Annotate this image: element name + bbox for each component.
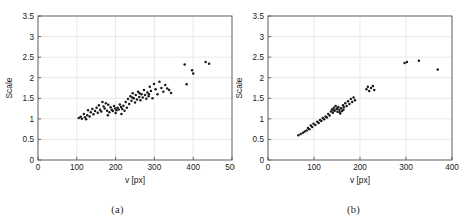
data-point [123,109,126,112]
data-point [131,96,134,99]
data-point [153,83,156,86]
data-point [403,62,406,65]
y-tick-label: 2 [259,74,264,83]
data-point [108,111,111,114]
data-point [354,99,357,102]
y-tick-label: 2.5 [23,53,35,62]
data-point [90,111,93,114]
data-point [164,84,167,87]
y-tick-label: 3.5 [23,12,35,21]
data-point [347,100,350,103]
data-point [185,83,188,86]
data-point [308,128,311,131]
data-point [112,110,115,113]
data-point [328,114,331,117]
data-point [106,109,109,112]
x-tick-label: 100 [70,163,84,172]
y-tick-label: 0 [29,156,34,165]
data-point [128,103,131,106]
data-point [192,72,195,75]
data-point [119,103,122,106]
y-tick-label: 0.5 [23,135,35,144]
x-tick-label: 400 [445,163,459,172]
data-point [323,118,326,121]
data-point [334,105,337,108]
data-point [311,126,314,129]
data-point [109,106,112,109]
data-point [113,105,116,108]
data-point [88,115,91,118]
panel-b-caption: (b) [236,204,471,215]
data-point [148,86,151,89]
figure-container: 010020030040050000.511.522.533.5v [px]Sc… [0,0,471,221]
data-point [134,101,137,104]
data-point [117,108,120,111]
data-point [160,87,163,90]
y-tick-label: 1.5 [253,94,265,103]
data-point [150,90,153,93]
data-point [120,113,123,116]
data-point [127,98,130,101]
x-tick-label: 300 [148,163,162,172]
data-point [367,86,370,89]
data-point [340,107,343,110]
data-point [326,116,329,119]
data-point [314,124,317,127]
x-axis-title: v [px] [125,175,145,185]
data-point [365,88,368,91]
data-point [98,104,101,107]
y-tick-label: 0 [259,156,264,165]
x-tick-label: 0 [36,163,41,172]
data-point [368,90,371,93]
data-point [191,69,194,72]
y-tick-label: 3 [29,33,34,42]
scatter-plot-b: 010020030040000.511.522.533.5v [px]Scale [236,0,471,190]
data-point [317,122,320,125]
data-point [297,134,300,137]
data-point [336,107,339,110]
data-point [103,107,106,110]
data-point [85,118,88,121]
x-tick-label: 0 [266,163,271,172]
data-point [183,63,186,66]
data-point [158,81,161,84]
panel-a-caption: (a) [0,204,235,215]
data-point [83,113,86,116]
data-point [87,109,90,112]
y-axis-title: Scale [236,77,244,98]
data-point [142,96,145,99]
data-point [373,89,376,92]
data-point [156,93,159,96]
data-point [101,101,104,104]
data-point [343,106,346,109]
x-tick-label: 200 [109,163,123,172]
data-point [351,101,354,104]
data-point [91,108,94,111]
data-point [320,120,323,123]
data-point [170,92,173,95]
data-point [139,99,142,102]
data-point [336,111,339,114]
data-point [144,94,147,97]
data-point [208,62,211,65]
data-point [131,92,134,95]
data-point [105,102,108,105]
data-point [370,87,373,90]
y-axis-title: Scale [4,77,14,98]
data-point [86,114,89,117]
data-point [204,61,207,64]
data-point [115,109,118,112]
panel-a: 010020030040050000.511.522.533.5v [px]Sc… [0,0,235,221]
data-point [136,98,139,101]
data-point [126,106,128,109]
data-point [124,101,127,104]
data-point [154,88,157,91]
data-point [92,113,95,116]
data-point [97,111,100,114]
data-point [348,103,351,106]
data-point [81,118,84,121]
y-tick-label: 3.5 [253,12,265,21]
data-point [121,108,124,111]
data-point [299,133,302,136]
x-tick-label: 400 [186,163,200,172]
